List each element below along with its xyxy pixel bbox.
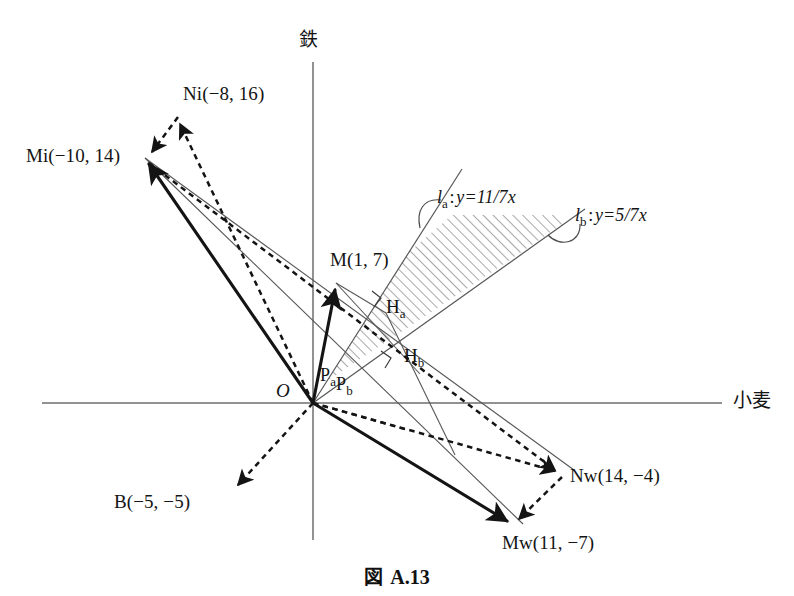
- pa-base: P: [320, 365, 330, 385]
- la-equation: y=11/7x: [456, 187, 516, 207]
- vector-O-to-Nw: [313, 403, 555, 471]
- axis-label-x: 小麦: [733, 391, 771, 410]
- vector-O-to-Mi: [149, 164, 313, 403]
- point-label-b: B(−5, −5): [114, 492, 190, 511]
- lb-subscript: b: [580, 214, 587, 229]
- dash-stub-right: [313, 403, 408, 430]
- guide-m-to-ha: [336, 283, 386, 313]
- lb-equation: y=5/7x: [595, 205, 647, 225]
- hb-subscript: b: [418, 355, 425, 370]
- point-label-mi: Mi(−10, 14): [26, 146, 120, 165]
- figure-root: 鉄 小麦 O Ni(−8, 16) Mi(−10, 14) M(1, 7) B(…: [0, 0, 794, 596]
- hb-base: H: [404, 345, 418, 366]
- axis-label-y: 鉄: [299, 30, 318, 49]
- ha-base: H: [386, 296, 400, 317]
- vector-O-to-B: [238, 403, 313, 485]
- vector-Ni-to-Mi: [152, 117, 178, 152]
- vector-O-to-Mw: [313, 403, 507, 521]
- guide-mi-to-m: [145, 158, 523, 524]
- origin-dash-stubs: [313, 403, 408, 430]
- point-label-pb: Pb: [336, 375, 353, 397]
- lb-colon: :: [587, 205, 595, 225]
- point-label-hb: Hb: [404, 346, 424, 369]
- caption-number: A.13: [390, 566, 429, 588]
- caption-prefix: 図: [364, 566, 383, 588]
- origin-label: O: [276, 381, 290, 400]
- point-label-mw: Mw(11, −7): [502, 533, 594, 552]
- point-label-ni: Ni(−8, 16): [183, 84, 264, 103]
- point-label-ha: Ha: [386, 297, 406, 320]
- vector-O-to-Ni: [180, 124, 313, 403]
- line-label-lb: lb : y=5/7x: [575, 206, 647, 228]
- ha-subscript: a: [400, 306, 406, 321]
- figure-caption: 図 A.13: [0, 562, 794, 589]
- dashed-vectors: [149, 117, 562, 519]
- pb-base: P: [336, 374, 346, 394]
- point-label-m: M(1, 7): [330, 250, 389, 269]
- point-label-nw: Nw(14, −4): [570, 466, 660, 485]
- vector-Nw-to-Mw: [519, 477, 562, 519]
- point-label-pa: Pa: [320, 366, 336, 388]
- line-label-la: la : y=11/7x: [437, 188, 516, 210]
- pb-subscript: b: [346, 383, 353, 398]
